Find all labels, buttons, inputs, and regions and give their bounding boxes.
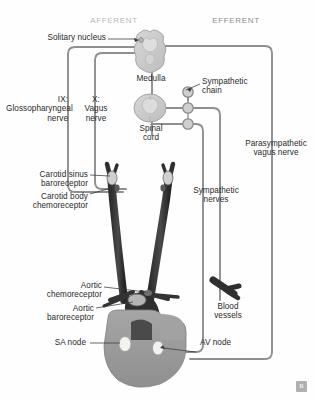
label-medulla: Medulla bbox=[128, 74, 174, 83]
label-sa-node: SA node bbox=[28, 338, 86, 347]
carotid-body-left bbox=[114, 185, 119, 192]
label-aortic-baroreceptor: Aortic baroreceptor bbox=[8, 304, 94, 323]
medulla-figure bbox=[134, 30, 166, 73]
watermark-icon: R bbox=[296, 381, 307, 392]
blood-vessels-icon bbox=[213, 280, 239, 298]
carotid-arteries bbox=[104, 164, 178, 306]
label-sympathetic-nerves: Sympathetic nerves bbox=[185, 186, 247, 205]
label-aortic-chemoreceptor: Aortic chemoreceptor bbox=[8, 281, 102, 300]
sympathetic-chain-ganglia bbox=[183, 87, 193, 129]
ganglion-icon-2 bbox=[183, 103, 193, 113]
heart-figure bbox=[104, 310, 186, 387]
label-parasympathetic-vagus-nerve: Parasympathetic vagus nerve bbox=[238, 139, 314, 158]
carotid-sinus-right bbox=[163, 171, 173, 185]
carotid-sinus-left bbox=[107, 171, 117, 185]
carotid-body-right bbox=[160, 185, 165, 192]
sa-node-marker bbox=[119, 337, 131, 352]
spinal-cord-figure bbox=[134, 94, 166, 122]
aortic-chemoreceptor-marker bbox=[144, 290, 152, 296]
label-carotid-sinus-baroreceptor: Carotid sinus baroreceptor bbox=[10, 170, 88, 189]
aortic-baroreceptor-marker bbox=[128, 294, 146, 306]
label-blood-vessels: Blood vessels bbox=[204, 302, 252, 321]
baroreceptor-reflex-diagram: AFFERENT EFFERENT bbox=[0, 0, 315, 400]
solitary-nucleus-marker bbox=[139, 38, 144, 43]
label-spinal-cord: Spinal cord bbox=[130, 124, 172, 143]
label-av-node: AV node bbox=[200, 338, 258, 347]
label-vagus-nerve: X: Vagus nerve bbox=[77, 95, 115, 123]
pathway-sympathetic-nerve-left bbox=[188, 124, 203, 345]
ganglion-icon-3 bbox=[183, 119, 193, 129]
label-sympathetic-chain: Sympathetic chain bbox=[202, 77, 272, 96]
label-glossopharyngeal-nerve: IX: Glossopharyngeal nerve bbox=[6, 95, 68, 123]
label-carotid-body-chemoreceptor: Carotid body chemoreceptor bbox=[6, 192, 88, 211]
label-solitary-nucleus: Solitary nucleus bbox=[12, 33, 106, 42]
